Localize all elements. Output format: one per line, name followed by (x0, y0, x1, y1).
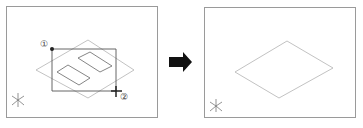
point-1-label: ① (40, 40, 48, 49)
right-arrow-icon (169, 52, 192, 72)
right-viewport-frame (205, 8, 356, 118)
first-point-marker (50, 47, 54, 51)
left-viewport-frame (7, 7, 158, 118)
point-2-label: ② (120, 93, 128, 102)
diagram-canvas (0, 0, 363, 128)
diagram-stage: ① ② (0, 0, 363, 128)
